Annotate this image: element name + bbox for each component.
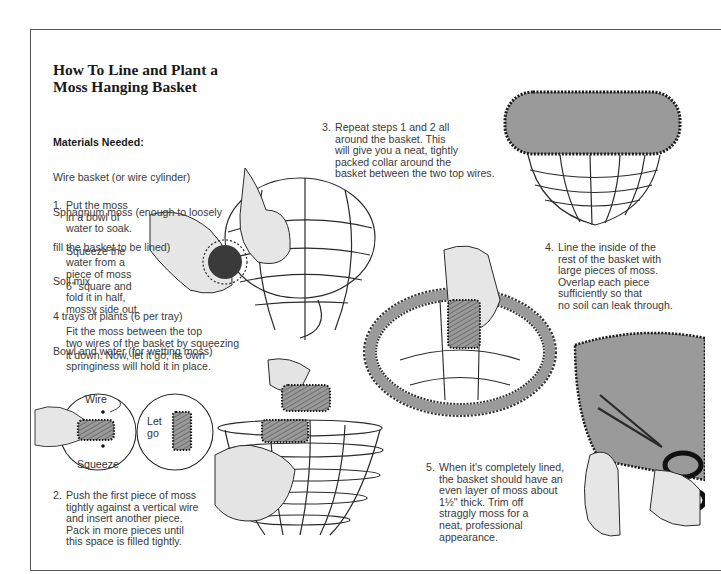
title-line-1: How To Line and Plant a — [53, 61, 218, 78]
basket-illustration-step3 — [370, 246, 550, 410]
step-number: 5. — [426, 462, 435, 474]
page-title: How To Line and Plant a Moss Hanging Bas… — [53, 61, 218, 95]
callout-let-go: Let go — [147, 415, 162, 439]
step-number: 3. — [322, 122, 331, 134]
step-5-text: When it's completely lined, the basket s… — [426, 462, 564, 543]
step-1-para-2: Squeeze the water from a piece of moss 6… — [53, 246, 239, 316]
step-number: 4. — [545, 242, 554, 254]
callout-wire: Wire — [85, 393, 107, 405]
step-number: 1. — [53, 200, 62, 212]
step-4: 4. Line the inside of the rest of the ba… — [545, 242, 673, 312]
step-3: 3. Repeat steps 1 and 2 all around the b… — [322, 122, 495, 180]
step-1-para-1: Put the moss in a bowl of water to soak. — [53, 200, 239, 235]
callout-let-go-line-2: go — [147, 427, 162, 439]
step-1: 1. Put the moss in a bowl of water to so… — [53, 200, 239, 373]
step-4-text: Line the inside of the rest of the baske… — [545, 242, 673, 312]
step-1-para-3: Fit the moss between the top two wires o… — [53, 326, 239, 372]
step-2-text: Push the first piece of moss tightly aga… — [53, 490, 198, 548]
materials-heading: Materials Needed: — [53, 137, 222, 149]
hands-step2 — [215, 359, 330, 521]
title-line-2: Moss Hanging Basket — [53, 78, 218, 95]
step-3-text: Repeat steps 1 and 2 all around the bask… — [322, 122, 495, 180]
basket-illustration-step4 — [505, 92, 680, 225]
trimming-illustration-step5 — [575, 333, 705, 536]
callout-let-go-line-1: Let — [147, 415, 162, 427]
step-number: 2. — [53, 490, 62, 502]
step-2: 2. Push the first piece of moss tightly … — [53, 490, 198, 548]
callout-squeeze: Squeeze — [77, 458, 119, 470]
material-item: Wire basket (or wire cylinder) — [53, 172, 222, 184]
step-5: 5. When it's completely lined, the baske… — [426, 462, 564, 543]
